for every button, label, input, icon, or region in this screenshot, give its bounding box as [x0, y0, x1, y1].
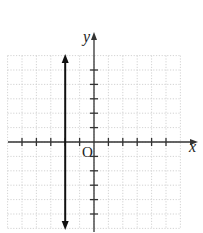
x-axis-label: x — [188, 138, 196, 155]
origin-label: O — [82, 144, 93, 160]
arrow-down-icon — [62, 221, 69, 230]
y-axis-label: y — [81, 28, 91, 46]
arrow-up-icon — [62, 54, 69, 63]
coordinate-plane: x y O — [0, 0, 203, 233]
y-axis-arrow-icon — [91, 32, 97, 40]
